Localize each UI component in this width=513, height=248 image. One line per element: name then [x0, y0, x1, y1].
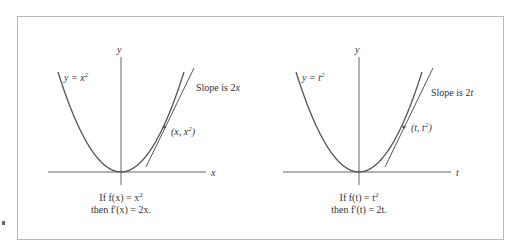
- left-tangent-point: [163, 125, 166, 128]
- right-caption: If f(t) = t2 then f′(t) = 2t.: [309, 192, 409, 216]
- left-tangent-line: [146, 68, 194, 167]
- left-curve-label: y = x2: [64, 72, 88, 83]
- left-caption-line1-exponent: 2: [139, 191, 143, 199]
- right-slope-label: Slope is 2t: [431, 87, 473, 98]
- right-slope-label-text: Slope is 2: [431, 87, 470, 98]
- right-slope-label-var: t: [470, 87, 473, 98]
- right-curve-label-base: y = t: [302, 72, 321, 83]
- right-tangent-point: [402, 125, 405, 128]
- right-caption-line2: then f′(t) = 2t.: [309, 204, 409, 216]
- right-caption-line1: If f(t) = t2: [309, 192, 409, 204]
- right-caption-line1-text: If f(t) = t: [340, 192, 375, 203]
- left-curve-label-exponent: 2: [85, 71, 89, 79]
- left-caption: If f(x) = x2 then f′(x) = 2x.: [71, 192, 171, 216]
- left-point-label-pre: (x, x: [171, 126, 188, 137]
- right-y-axis-label: y: [355, 44, 359, 55]
- left-curve-label-base: y = x: [64, 72, 85, 83]
- right-caption-line1-exponent: 2: [375, 191, 379, 199]
- right-point-label-pre: (t, t: [411, 122, 425, 133]
- left-x-axis-label: x: [211, 167, 215, 178]
- left-y-axis-label: y: [117, 44, 121, 55]
- left-slope-label-text: Slope is 2: [196, 82, 235, 93]
- left-caption-line2: then f′(x) = 2x.: [71, 204, 171, 216]
- left-point-label: (x, x2): [171, 126, 195, 137]
- right-point-label-post: ): [428, 122, 431, 133]
- right-t-axis-label: t: [456, 167, 459, 178]
- right-tangent-line: [385, 68, 433, 167]
- left-slope-label-var: x: [235, 82, 239, 93]
- right-curve-label-exponent: 2: [321, 71, 325, 79]
- left-point-label-post: ): [192, 126, 195, 137]
- left-caption-line1: If f(x) = x2: [71, 192, 171, 204]
- left-caption-line1-text: If f(x) = x: [99, 192, 139, 203]
- right-point-label: (t, t2): [411, 122, 432, 133]
- right-curve-label: y = t2: [302, 72, 324, 83]
- left-slope-label: Slope is 2x: [196, 82, 240, 93]
